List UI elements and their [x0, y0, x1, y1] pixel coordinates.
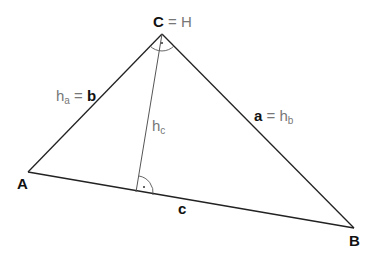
- vertex-c-label: C = H: [153, 14, 192, 29]
- altitude-hc-label: hc: [152, 118, 165, 136]
- side-a-text: a: [254, 107, 262, 124]
- side-b-label: ha = b: [56, 88, 96, 106]
- side-b-eq: =: [74, 87, 83, 104]
- side-a-label: a = hb: [254, 108, 293, 126]
- triangle-diagram: [0, 0, 375, 258]
- right-angle-dot-c: [161, 42, 163, 44]
- vertex-b-label: B: [349, 233, 360, 248]
- side-a-line: [162, 34, 354, 228]
- right-angle-arc-c: [150, 46, 174, 51]
- vertex-a-label: A: [17, 176, 28, 191]
- side-a-eq: =: [267, 107, 276, 124]
- side-c-line: [28, 172, 354, 228]
- altitude-hc-line: [136, 34, 162, 192]
- vertex-c-text: C: [153, 13, 164, 30]
- ha-text: ha: [56, 87, 70, 104]
- right-angle-dot-foot: [143, 186, 145, 188]
- hb-text: hb: [279, 107, 293, 124]
- vertex-c-eq-text: = H: [168, 13, 192, 30]
- side-c-label: c: [178, 201, 186, 216]
- side-b-text: b: [87, 87, 96, 104]
